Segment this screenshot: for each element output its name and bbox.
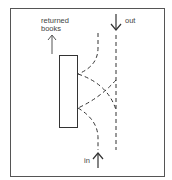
- return-desk: [60, 56, 78, 128]
- in-arrow-icon: [93, 153, 103, 168]
- library-flow-diagram: returned books out in: [0, 0, 172, 180]
- returned-books-label-line2: books: [41, 24, 61, 33]
- in-label: in: [84, 156, 90, 165]
- out-arrow-icon: [111, 14, 121, 30]
- path-top-left: [78, 33, 98, 74]
- out-label: out: [125, 16, 136, 25]
- path-desk-to-out: [78, 74, 116, 110]
- path-cross-to-desk: [78, 80, 116, 108]
- returned-books-arrow-icon: [48, 35, 56, 54]
- path-in-to-desk: [78, 108, 98, 150]
- diagram-frame: [11, 9, 165, 177]
- flow-paths: [78, 33, 116, 150]
